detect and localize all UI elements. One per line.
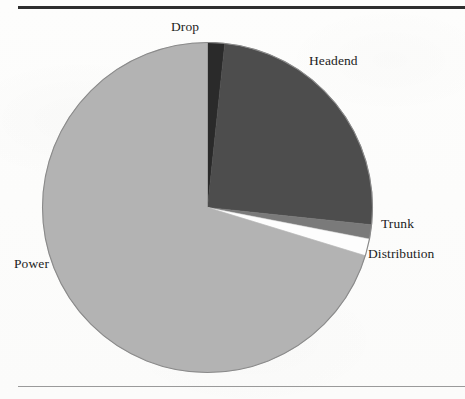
pie-slice-group (42, 42, 372, 372)
pie-label-power: Power (14, 256, 49, 272)
pie-chart-svg (0, 0, 465, 399)
pie-label-drop: Drop (171, 19, 199, 35)
pie-label-trunk: Trunk (381, 216, 414, 232)
pie-chart-figure: Drop Headend Trunk Distribution Power (0, 0, 465, 399)
pie-slice-headend (208, 43, 373, 224)
pie-label-headend: Headend (309, 53, 358, 69)
pie-label-distribution: Distribution (368, 246, 434, 262)
